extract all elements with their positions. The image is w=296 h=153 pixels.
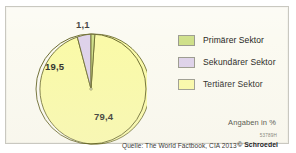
legend-item-secondary: Sekundärer Sektor — [178, 51, 296, 73]
legend-item-primary: Primärer Sektor — [178, 29, 296, 51]
chart-legend: Primärer Sektor Sekundärer Sektor Tertiä… — [178, 29, 296, 95]
legend-swatch-tertiary — [178, 79, 195, 90]
pie-label-tertiary: 79,4 — [94, 111, 113, 122]
publisher-credit: © Schroedel — [237, 141, 278, 148]
units-note: Angaben in % — [228, 118, 276, 127]
legend-item-tertiary: Tertiärer Sektor — [178, 73, 296, 95]
pie-label-primary: 1,1 — [76, 19, 90, 30]
source-note: Quelle: The World Factbook, CIA 2013 — [122, 142, 237, 149]
legend-swatch-primary — [178, 35, 195, 46]
legend-label-primary: Primärer Sektor — [203, 35, 264, 45]
legend-swatch-secondary — [178, 57, 195, 68]
legend-label-secondary: Sekundärer Sektor — [203, 57, 276, 67]
pie-label-secondary: 19,5 — [45, 61, 64, 72]
pie-chart: 1,1 19,5 79,4 — [35, 33, 147, 145]
legend-label-tertiary: Tertiärer Sektor — [203, 79, 263, 89]
pie-chart-svg — [35, 33, 147, 145]
publication-code: 53789H — [260, 133, 277, 138]
pie-center-dot — [90, 88, 92, 90]
chart-figure: 1,1 19,5 79,4 Primärer Sektor Sekundärer… — [0, 0, 296, 153]
figure-panel: 1,1 19,5 79,4 Primärer Sektor Sekundärer… — [5, 6, 289, 144]
